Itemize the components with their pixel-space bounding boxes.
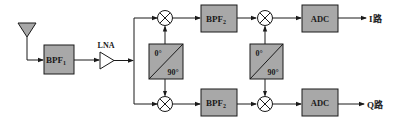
mixer-icon xyxy=(258,11,273,26)
antenna-icon xyxy=(18,23,36,37)
svg-text:ADC: ADC xyxy=(311,14,329,24)
adc-bottom-block: ADC xyxy=(302,89,338,116)
svg-text:0°: 0° xyxy=(154,49,161,58)
svg-text:90°: 90° xyxy=(267,68,278,77)
rf-receiver-diagram: BPF1 LNA 0° 90° BPF2 BPF2 xyxy=(0,0,396,125)
phase-shifter-2: 0° 90° xyxy=(250,44,283,79)
svg-text:ADC: ADC xyxy=(311,98,329,108)
i-channel-output-label: I路 xyxy=(369,13,383,24)
lna-label: LNA xyxy=(98,41,115,50)
svg-text:90°: 90° xyxy=(167,68,178,77)
adc-top-block: ADC xyxy=(302,5,338,32)
svg-text:0°: 0° xyxy=(255,49,262,58)
lna-amplifier-icon xyxy=(100,52,114,69)
bpf2-top-block: BPF2 xyxy=(201,5,237,32)
antenna-wire xyxy=(27,37,43,60)
phase-shifter-1: 0° 90° xyxy=(149,44,183,79)
bpf2-bottom-block: BPF2 xyxy=(201,89,237,116)
mixer-icon xyxy=(258,97,273,112)
bpf1-block: BPF1 xyxy=(44,45,74,74)
mixer-icon xyxy=(158,11,173,26)
q-channel-output-label: Q路 xyxy=(367,99,384,110)
mixer-icon xyxy=(158,97,173,112)
